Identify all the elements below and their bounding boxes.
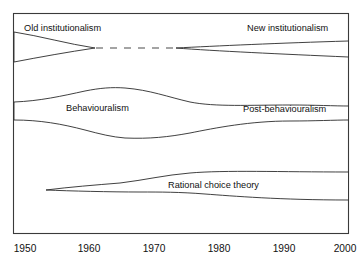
x-tick-1980: 1980	[208, 244, 231, 254]
x-tick-2000: 2000	[334, 244, 357, 254]
x-axis: 1950 1960 1970 1980 1990 2000	[0, 0, 363, 263]
x-tick-1990: 1990	[273, 244, 296, 254]
x-tick-1970: 1970	[143, 244, 166, 254]
streamgraph-figure: Old institutionalism New institutionalis…	[0, 0, 363, 263]
x-tick-1950: 1950	[14, 244, 37, 254]
x-tick-1960: 1960	[78, 244, 101, 254]
